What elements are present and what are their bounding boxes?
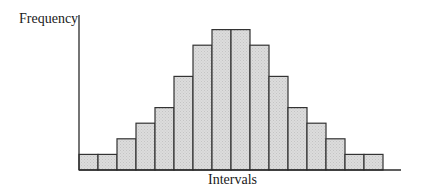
histogram-bar xyxy=(79,154,98,170)
histogram-bar xyxy=(212,30,231,170)
histogram-bar xyxy=(307,123,326,170)
histogram-bar xyxy=(326,139,345,170)
histogram-bar xyxy=(231,30,250,170)
x-axis-label: Intervals xyxy=(208,172,257,188)
histogram-bar xyxy=(155,108,174,170)
histogram-bar xyxy=(288,108,307,170)
histogram-bar xyxy=(193,45,212,170)
histogram-bar xyxy=(136,123,155,170)
y-axis-label: Frequency xyxy=(19,11,78,27)
chart-canvas xyxy=(0,0,426,193)
histogram-bar xyxy=(250,45,269,170)
histogram-bar xyxy=(345,154,364,170)
histogram-bar xyxy=(117,139,136,170)
histogram-bar xyxy=(269,76,288,170)
histogram-bar xyxy=(174,76,193,170)
histogram-bars xyxy=(79,30,383,170)
histogram-bar xyxy=(364,154,383,170)
histogram-bar xyxy=(98,154,117,170)
